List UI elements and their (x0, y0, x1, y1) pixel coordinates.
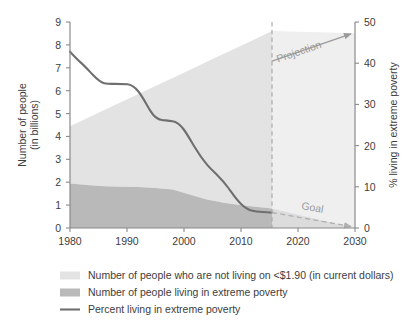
x-tick-label-1990: 1990 (115, 235, 139, 247)
y-tick-label-9: 9 (55, 16, 61, 28)
x-tick-label-2020: 2020 (286, 235, 310, 247)
y2-tick-label-10: 10 (364, 181, 376, 193)
y2-tick-label-0: 0 (364, 222, 370, 234)
y-tick-label-8: 8 (55, 39, 61, 51)
legend-swatch-not-in-poverty (60, 272, 80, 280)
legend-label-percent-line: Percent living in extreme poverty (88, 303, 241, 315)
y2-tick-label-30: 30 (364, 98, 376, 110)
y-tick-label-7: 7 (55, 62, 61, 74)
x-tick-label-1980: 1980 (58, 235, 82, 247)
poverty-chart-svg: Projection Goal 9 8 7 6 5 4 3 2 1 0 (0, 0, 419, 333)
y-axis-title-line2: (in billions) (28, 100, 40, 150)
x-tick-label-2010: 2010 (229, 235, 253, 247)
y2-tick-label-50: 50 (364, 16, 376, 28)
x-tick-label-2000: 2000 (172, 235, 196, 247)
y-tick-label-0: 0 (55, 222, 61, 234)
y-tick-label-6: 6 (55, 85, 61, 97)
legend-label-in-poverty: Number of people living in extreme pover… (88, 286, 288, 298)
y-tick-label-4: 4 (55, 130, 61, 142)
y-tick-label-2: 2 (55, 176, 61, 188)
y2-axis-title: % living in extreme poverty (387, 62, 399, 188)
y-tick-label-3: 3 (55, 153, 61, 165)
y2-tick-label-20: 20 (364, 140, 376, 152)
x-tick-label-2030: 2030 (343, 235, 367, 247)
y-tick-label-5: 5 (55, 108, 61, 120)
y-axis-title-line1: Number of people (16, 83, 28, 167)
y-tick-label-1: 1 (55, 199, 61, 211)
legend-swatch-in-poverty (60, 289, 80, 297)
legend-label-not-in-poverty: Number of people who are not living on <… (88, 269, 394, 281)
chart-figure: Projection Goal 9 8 7 6 5 4 3 2 1 0 (0, 0, 419, 333)
y2-tick-label-40: 40 (364, 57, 376, 69)
